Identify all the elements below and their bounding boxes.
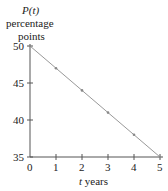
data-point — [55, 67, 58, 70]
data-point — [133, 134, 136, 137]
x-tick-label: 3 — [105, 161, 111, 173]
data-point — [107, 111, 110, 114]
x-axis-unit: years — [82, 175, 108, 187]
data-point — [81, 89, 84, 92]
x-tick-label: 5 — [157, 161, 163, 173]
y-tick-label: 40 — [13, 114, 24, 126]
x-tick-label: 0 — [27, 161, 33, 173]
x-tick-label: 2 — [79, 161, 85, 173]
series-line — [30, 46, 160, 157]
y-axis-label-line1: P(t) — [22, 4, 39, 16]
x-tick-label: 1 — [53, 161, 59, 173]
y-tick-label: 45 — [13, 77, 24, 89]
y-tick-label: 50 — [13, 40, 24, 52]
x-axis-label: t years — [79, 175, 108, 187]
y-tick-label: 35 — [13, 151, 24, 163]
y-axis-label-line2: percentage — [6, 17, 54, 29]
data-point — [29, 45, 32, 48]
data-point — [159, 156, 162, 159]
x-tick-label: 4 — [131, 161, 137, 173]
